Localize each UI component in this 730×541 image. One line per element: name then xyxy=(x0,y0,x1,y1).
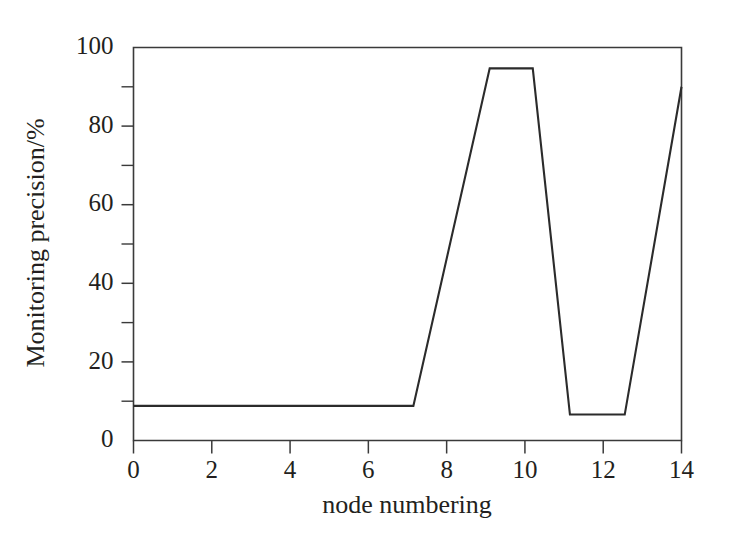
x-tick-label-12: 12 xyxy=(591,456,616,483)
y-tick-label-20: 20 xyxy=(89,347,114,374)
y-axis-ticks xyxy=(122,87,134,401)
x-tick-label-4: 4 xyxy=(284,456,297,483)
x-tick-label-10: 10 xyxy=(512,456,537,483)
chart-figure: 020406080100 02468101214 node numbering … xyxy=(0,0,730,541)
x-axis-ticks xyxy=(134,441,682,454)
x-tick-label-6: 6 xyxy=(362,456,375,483)
x-tick-label-14: 14 xyxy=(669,456,695,483)
y-tick-label-0: 0 xyxy=(101,425,114,452)
plot-frame xyxy=(134,48,682,441)
x-axis-title: node numbering xyxy=(322,490,492,519)
x-axis-tick-labels: 02468101214 xyxy=(127,456,694,483)
y-tick-label-100: 100 xyxy=(76,32,114,59)
series-line-monitoring-precision xyxy=(134,68,682,414)
x-tick-label-8: 8 xyxy=(440,456,453,483)
x-tick-label-0: 0 xyxy=(127,456,140,483)
x-tick-label-2: 2 xyxy=(206,456,219,483)
y-axis-tick-labels: 020406080100 xyxy=(76,32,114,452)
data-series-group xyxy=(134,68,682,414)
y-tick-label-60: 60 xyxy=(89,189,114,216)
line-chart: 020406080100 02468101214 node numbering … xyxy=(0,0,730,541)
y-axis-title: Monitoring precision/% xyxy=(21,118,50,367)
y-tick-label-80: 80 xyxy=(89,111,114,138)
y-tick-label-40: 40 xyxy=(89,268,114,295)
